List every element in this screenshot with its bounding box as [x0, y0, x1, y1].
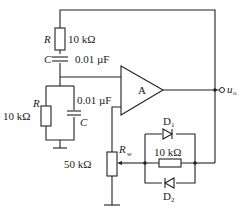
diode-d2-subscript: 2 — [171, 196, 175, 204]
parallel-capacitor-symbol: C — [80, 116, 88, 128]
feedback-resistor — [159, 159, 181, 167]
opamp-label: A — [138, 84, 146, 96]
output-label-subscript: o — [233, 89, 237, 97]
parallel-capacitor-value: 0.01 µF — [77, 94, 111, 106]
parallel-resistor-value: 10 kΩ — [3, 110, 30, 122]
series-resistor — [55, 28, 65, 50]
parallel-resistor — [41, 106, 51, 126]
diode-d2-symbol: D — [163, 190, 171, 202]
potentiometer-symbol: R — [118, 143, 126, 155]
output-terminal-icon — [220, 88, 225, 93]
potentiometer-subscript: w — [127, 150, 132, 158]
circuit-diagram: R 10 kΩ C 0.01 µF R 10 kΩ 0.01 µF C A u … — [0, 0, 244, 223]
series-resistor-symbol: R — [43, 33, 51, 45]
diode-d1-symbol: D — [163, 115, 171, 127]
parallel-resistor-symbol: R — [32, 97, 40, 109]
feedback-resistor-value: 10 kΩ — [154, 146, 181, 158]
wiper-arrow-icon — [117, 161, 122, 165]
series-capacitor-value: 0.01 µF — [75, 53, 109, 65]
potentiometer-value: 50 kΩ — [64, 158, 91, 170]
potentiometer — [107, 152, 117, 176]
junction-dot-left — [143, 161, 147, 165]
series-capacitor-symbol: C — [44, 53, 52, 65]
diode-d1-subscript: 1 — [171, 121, 175, 129]
series-resistor-value: 10 kΩ — [68, 33, 95, 45]
junction-dot-right — [193, 161, 197, 165]
